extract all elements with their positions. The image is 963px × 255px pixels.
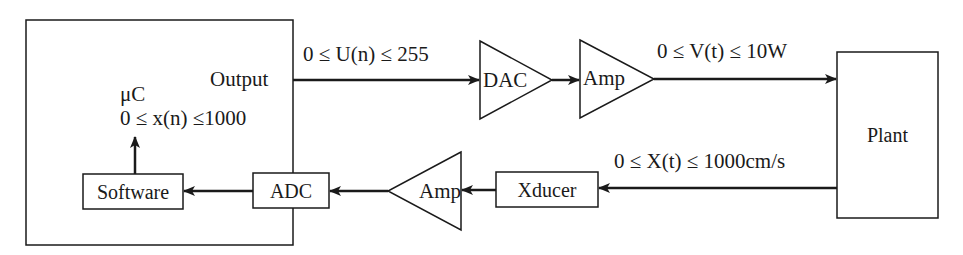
plant-label: Plant [837,52,938,218]
xducer-label: Xducer [496,172,598,207]
microcontroller-box [26,20,293,245]
signal-u-label: 0 ≤ U(n) ≤ 255 [303,44,429,65]
software-label: Software [83,174,183,209]
microcontroller-label: μC [120,84,145,105]
amp-forward-label: Amp [580,60,643,96]
adc-label: ADC [253,173,329,208]
dac-label: DAC [480,62,539,98]
output-port-label: Output [210,69,268,90]
amp-feedback-label: Amp [403,173,463,209]
signal-x-label: 0 ≤ X(t) ≤ 1000cm/s [614,151,785,172]
microcontroller-range-label: 0 ≤ x(n) ≤1000 [120,108,246,129]
signal-v-label: 0 ≤ V(t) ≤ 10W [657,41,787,62]
